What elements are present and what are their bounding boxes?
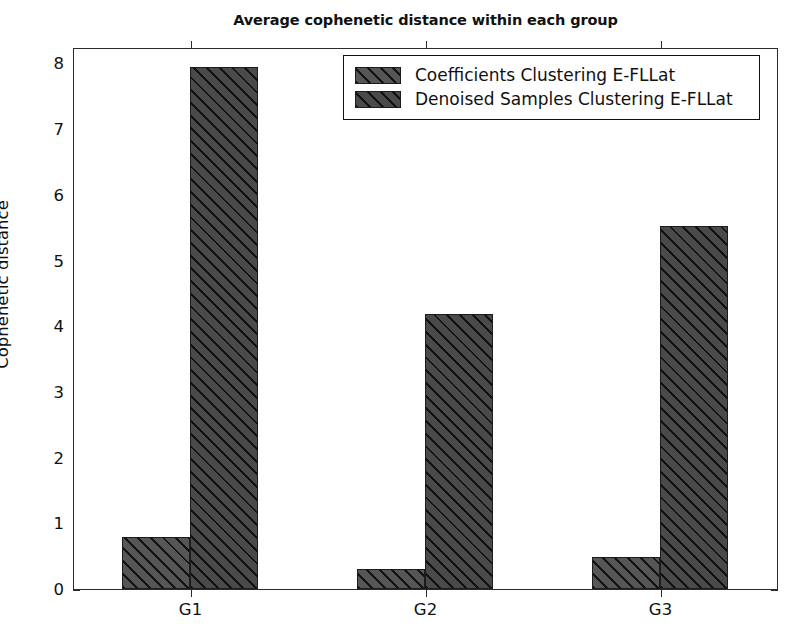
x-tick-mark <box>191 590 192 597</box>
bar <box>122 537 190 589</box>
bar <box>592 557 660 589</box>
bar <box>660 226 728 589</box>
legend-label: Coefficients Clustering E-FLLat <box>415 67 675 84</box>
y-tick-label: 3 <box>36 385 64 402</box>
legend-item: Coefficients Clustering E-FLLat <box>355 63 749 87</box>
plot-area <box>73 48 778 590</box>
y-tick-label: 0 <box>36 582 64 599</box>
bar <box>357 569 425 589</box>
legend-hatch-pattern <box>356 68 400 83</box>
y-tick-label: 5 <box>36 254 64 271</box>
x-tick-mark-top <box>191 41 192 48</box>
figure-canvas: Average cophenetic distance within each … <box>0 0 794 637</box>
bar <box>190 67 258 589</box>
chart-title: Average cophenetic distance within each … <box>73 12 778 28</box>
legend-swatch <box>355 67 401 84</box>
x-tick-label: G3 <box>616 600 706 619</box>
bar-hatch-pattern <box>661 227 727 588</box>
bar-hatch-pattern <box>191 68 257 588</box>
legend-hatch-pattern <box>356 92 400 107</box>
x-tick-label: G2 <box>381 600 471 619</box>
legend-label: Denoised Samples Clustering E-FLLat <box>415 91 733 108</box>
y-tick-label: 8 <box>36 56 64 73</box>
y-tick-mark <box>73 590 80 591</box>
y-tick-mark-right <box>771 590 778 591</box>
y-tick-label: 1 <box>36 516 64 533</box>
bar <box>425 314 493 589</box>
bar-hatch-pattern <box>593 558 659 588</box>
legend-item: Denoised Samples Clustering E-FLLat <box>355 87 749 111</box>
x-tick-mark-top <box>661 41 662 48</box>
bar-hatch-pattern <box>358 570 424 588</box>
y-tick-label: 6 <box>36 188 64 205</box>
y-tick-label: 4 <box>36 319 64 336</box>
y-tick-label: 2 <box>36 451 64 468</box>
legend-swatch <box>355 91 401 108</box>
bar-hatch-pattern <box>426 315 492 588</box>
x-tick-label: G1 <box>146 600 236 619</box>
x-tick-mark-top <box>426 41 427 48</box>
x-tick-mark <box>426 590 427 597</box>
y-axis-label: Cophenetic distance <box>0 135 12 435</box>
y-tick-label: 7 <box>36 122 64 139</box>
chart-legend: Coefficients Clustering E-FLLatDenoised … <box>343 55 760 120</box>
x-tick-mark <box>661 590 662 597</box>
bar-hatch-pattern <box>123 538 189 588</box>
